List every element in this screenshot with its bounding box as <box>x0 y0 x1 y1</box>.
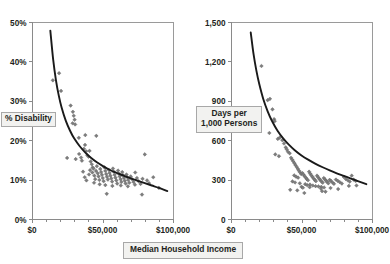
left-y-tick-label: 10% <box>10 176 27 185</box>
scatter-point <box>102 179 106 183</box>
shared-x-axis-title: Median Household Income <box>123 242 243 259</box>
left-y-tick-label: 20% <box>10 137 27 146</box>
right-x-tick-labels: $0$50,000$100,000 <box>226 226 389 235</box>
scatter-point <box>273 153 277 157</box>
scatter-point <box>73 118 77 122</box>
left-x-tick-label: $50,000 <box>88 226 118 235</box>
right-y-tick-label: 600 <box>212 137 226 146</box>
scatter-point <box>145 179 149 183</box>
scatter-point <box>87 173 91 177</box>
left-y-tick-label: 0% <box>15 216 28 225</box>
scatter-point <box>347 184 351 188</box>
right-trend-curve <box>251 33 367 185</box>
scatter-point <box>81 170 85 174</box>
left-x-tick-label: $0 <box>27 226 37 235</box>
left-y-tick-label: 30% <box>10 97 27 106</box>
scatter-point <box>95 164 99 168</box>
scatter-point <box>88 149 92 153</box>
scatter-point <box>105 192 109 196</box>
scatter-point <box>141 177 145 181</box>
scatter-point <box>350 174 354 178</box>
scatter-point <box>116 169 120 173</box>
scatter-point <box>111 184 115 188</box>
scatter-point <box>83 143 87 147</box>
scatter-point <box>268 131 272 135</box>
scatter-point <box>92 174 96 178</box>
scatter-point <box>329 186 333 190</box>
scatter-point <box>288 188 292 192</box>
left-x-tick-label: $100,000 <box>156 226 191 235</box>
scatter-point <box>298 181 302 185</box>
scatter-point <box>101 176 105 180</box>
scatter-point <box>57 71 61 75</box>
scatter-point <box>77 152 81 156</box>
scatter-point <box>115 182 119 186</box>
scatter-point <box>277 154 281 158</box>
scatter-point <box>143 153 147 157</box>
scatter-point <box>83 175 87 179</box>
scatter-point <box>85 179 89 183</box>
scatter-point <box>94 134 98 138</box>
scatter-point <box>98 182 102 186</box>
right-x-tick-label: $100,000 <box>355 226 390 235</box>
scatter-point <box>77 136 81 140</box>
right-y-axis-title-line2: 1,000 Persons <box>201 119 257 129</box>
right-x-tick-label: $0 <box>226 226 236 235</box>
right-y-tick-label: 1,500 <box>205 19 226 28</box>
scatter-point <box>98 167 102 171</box>
scatter-point <box>80 159 84 163</box>
scatter-point <box>103 169 107 173</box>
right-y-tick-label: 1,200 <box>205 58 226 67</box>
scatter-point <box>133 171 137 175</box>
scatter-point <box>65 156 69 160</box>
scatter-point <box>72 114 76 118</box>
scatter-point <box>69 104 73 108</box>
scatter-point <box>324 190 328 194</box>
scatter-point <box>120 170 124 174</box>
right-x-tick-label: $50,000 <box>287 226 317 235</box>
scatter-point <box>93 177 97 181</box>
left-scatter-points <box>51 71 161 196</box>
left-y-tick-label: 40% <box>10 58 27 67</box>
scatter-point <box>140 193 144 197</box>
scatter-point <box>59 89 63 93</box>
scatter-point <box>295 189 299 193</box>
scatter-point <box>71 110 75 114</box>
two-panel-scatter-figure: 0%10%20%30%40%50% $0$50,000$100,000 % Di… <box>0 0 390 264</box>
right-y-tick-label: 0 <box>221 216 226 225</box>
scatter-point <box>355 184 359 188</box>
scatter-point <box>110 180 114 184</box>
left-chart-canvas: 0%10%20%30%40%50% $0$50,000$100,000 <box>0 0 195 264</box>
right-y-tick-label: 300 <box>212 176 226 185</box>
scatter-point <box>79 156 83 160</box>
scatter-point <box>126 184 130 188</box>
scatter-point <box>260 64 264 68</box>
scatter-point <box>103 183 107 187</box>
scatter-point <box>51 78 55 82</box>
left-y-axis-title: % Disability <box>1 112 56 127</box>
left-y-tick-label: 50% <box>10 19 27 28</box>
scatter-point <box>98 178 102 182</box>
panel-disability-vs-income: 0%10%20%30%40%50% $0$50,000$100,000 % Di… <box>0 0 195 264</box>
scatter-point <box>151 175 155 179</box>
scatter-point <box>271 107 275 111</box>
scatter-point <box>83 133 87 137</box>
scatter-point <box>92 181 96 185</box>
scatter-point <box>336 187 340 191</box>
right-y-axis-title: Days per 1,000 Persons <box>196 106 262 133</box>
scatter-point <box>119 184 123 188</box>
right-y-tick-label: 900 <box>212 97 226 106</box>
left-x-tick-labels: $0$50,000$100,000 <box>27 226 190 235</box>
scatter-point <box>97 175 101 179</box>
scatter-point <box>302 191 306 195</box>
scatter-point <box>74 157 78 161</box>
left-trend-curve <box>50 31 167 191</box>
